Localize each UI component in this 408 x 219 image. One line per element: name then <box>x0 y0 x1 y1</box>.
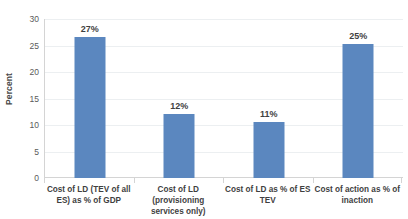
bar-value-label: 12% <box>170 101 188 111</box>
bar-slot: 11% <box>224 19 314 178</box>
x-axis-category-label-line: TEV <box>224 195 312 206</box>
bar[interactable] <box>74 37 105 179</box>
y-axis-title-text: Percent <box>4 73 14 105</box>
y-axis-tick-label: 0 <box>34 173 39 183</box>
bar[interactable] <box>164 114 195 178</box>
x-axis-separator-tick <box>134 178 135 183</box>
y-axis-tick-label: 5 <box>34 147 39 157</box>
x-axis-category-label-line: Cost of LD (TEV of all <box>45 184 133 195</box>
x-axis-separators <box>44 178 402 183</box>
bar[interactable] <box>343 44 374 178</box>
x-axis-category-label-line: ES) as % of GDP <box>45 195 133 206</box>
bars-layer: 27%12%11%25% <box>45 19 403 178</box>
x-axis-category-label-line: Cost of action as % of <box>314 184 402 195</box>
bar-slot: 25% <box>314 19 404 178</box>
plot-area: 27%12%11%25% <box>44 19 403 178</box>
x-axis-category-label-line: inaction <box>314 195 402 206</box>
x-axis-category-label: Cost of LD (provisioningservices only) <box>134 184 224 219</box>
bar[interactable] <box>253 122 284 178</box>
x-axis-category-label-line: Cost of LD (provisioning <box>135 184 223 206</box>
bar-value-label: 11% <box>260 109 278 119</box>
bar-chart: Percent 051015202530 27%12%11%25% Cost o… <box>0 0 408 219</box>
x-axis-category-label-line: Cost of LD as % of ES <box>224 184 312 195</box>
x-axis-category-label: Cost of action as % ofinaction <box>313 184 403 219</box>
x-axis-category-labels: Cost of LD (TEV of allES) as % of GDPCos… <box>44 184 402 219</box>
x-axis-separator-tick <box>223 178 224 183</box>
y-axis-tick-label: 10 <box>30 120 39 130</box>
x-axis-separator-tick <box>401 178 402 183</box>
x-axis-separator-tick <box>313 178 314 183</box>
x-axis-category-label: Cost of LD (TEV of allES) as % of GDP <box>44 184 134 219</box>
x-axis-separator-tick <box>44 178 45 183</box>
y-axis-tick-labels: 051015202530 <box>18 19 42 178</box>
y-axis-title: Percent <box>0 0 18 178</box>
y-axis-tick-label: 25 <box>30 41 39 51</box>
bar-value-label: 27% <box>81 24 99 34</box>
x-axis-category-label: Cost of LD as % of ESTEV <box>223 184 313 219</box>
bar-slot: 12% <box>135 19 225 178</box>
x-axis-category-label-line: services only) <box>135 206 223 217</box>
bar-slot: 27% <box>45 19 135 178</box>
y-axis-tick-label: 15 <box>30 94 39 104</box>
y-axis-tick-label: 20 <box>30 67 39 77</box>
y-axis-tick-label: 30 <box>30 14 39 24</box>
bar-value-label: 25% <box>349 31 367 41</box>
